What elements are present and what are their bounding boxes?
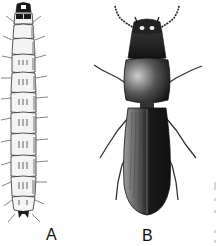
insect-illustration-figure: A [0,0,218,246]
panel-a-larva [0,0,60,226]
panel-a-label: A [46,227,57,243]
beetle-drawing [76,0,212,226]
panel-b-label: B [142,228,153,244]
larva-drawing [0,0,60,226]
scan-edge-marks [212,180,218,246]
panel-b-beetle [76,0,212,226]
